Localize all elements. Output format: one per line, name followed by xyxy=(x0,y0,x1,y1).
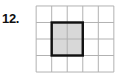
grid-diagram xyxy=(35,5,115,73)
problem-figure-page: 12. xyxy=(0,0,123,79)
grid-figure xyxy=(35,5,115,73)
problem-number-label: 12. xyxy=(2,11,19,26)
